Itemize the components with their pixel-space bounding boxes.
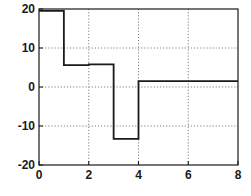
- x-tick-label: 2: [69, 169, 109, 181]
- y-tick-label: 0: [28, 81, 35, 93]
- step-plot: [0, 0, 251, 196]
- y-tick-label: -10: [18, 120, 35, 132]
- figure-canvas: -20-1001020 02468: [0, 0, 251, 196]
- x-tick-label: 6: [168, 169, 208, 181]
- y-tick-label: 20: [22, 3, 35, 15]
- y-tick-label: 10: [22, 42, 35, 54]
- x-tick-label: 4: [119, 169, 159, 181]
- x-tick-label: 0: [19, 169, 59, 181]
- x-tick-label: 8: [218, 169, 251, 181]
